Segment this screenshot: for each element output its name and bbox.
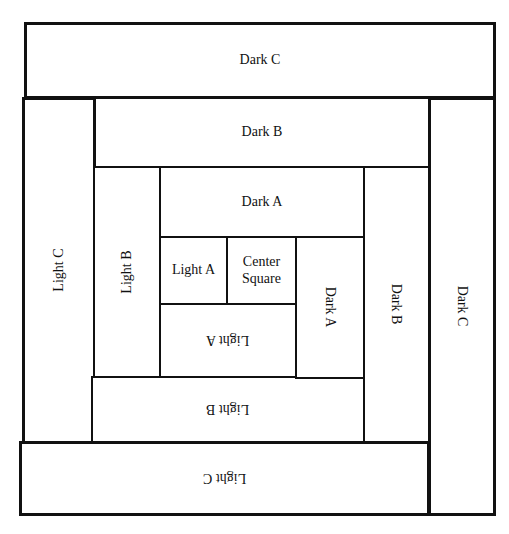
piece-dark-a-top: Dark A [159, 166, 365, 238]
piece-light-c-bottom: Light C [19, 441, 430, 516]
label-center-line1: Center [243, 254, 280, 269]
piece-dark-c-top: Dark C [24, 22, 496, 99]
label-dark-b-top: Dark B [242, 124, 283, 140]
piece-light-c-left: Light C [22, 97, 96, 444]
piece-dark-b-top: Dark B [94, 97, 430, 168]
piece-dark-c-right: Dark C [428, 97, 496, 516]
label-dark-a-right: Dark A [322, 287, 338, 328]
label-dark-b-right: Dark B [388, 284, 404, 325]
label-dark-a-top: Dark A [242, 194, 283, 210]
label-light-a-bottom: Light A [206, 332, 249, 348]
log-cabin-diagram: Dark C Light C Dark C Light C Dark B Lig… [0, 0, 509, 534]
label-center-square: Center Square [242, 254, 281, 286]
piece-light-b-bottom: Light B [91, 376, 365, 443]
piece-light-b-left: Light B [93, 166, 161, 379]
piece-center-square: Center Square [226, 236, 297, 305]
piece-dark-b-right: Dark B [363, 166, 430, 443]
label-light-b-left: Light B [119, 251, 135, 294]
label-light-a-left: Light A [172, 262, 215, 278]
label-light-c-left: Light C [51, 249, 67, 292]
piece-dark-a-right: Dark A [295, 236, 365, 379]
label-light-b-bottom: Light B [206, 401, 249, 417]
label-dark-c-top: Dark C [240, 52, 281, 68]
label-light-c-bottom: Light C [203, 470, 246, 486]
piece-light-a-left: Light A [159, 236, 228, 305]
piece-light-a-bottom: Light A [159, 303, 297, 378]
label-dark-c-right: Dark C [454, 286, 470, 327]
label-center-line2: Square [242, 271, 281, 286]
